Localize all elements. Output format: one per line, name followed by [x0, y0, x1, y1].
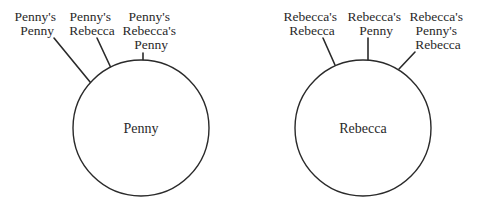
label-line: Penny's	[70, 9, 111, 24]
label-rebecca-penny-rebecca: Rebecca's Penny's Rebecca	[410, 9, 467, 52]
label-line: Penny's	[129, 9, 170, 24]
label-line: Rebecca's	[284, 9, 337, 24]
connector-rebecca-rebecca	[323, 38, 335, 65]
label-line: Rebecca	[289, 23, 335, 38]
label-penny-penny: Penny's Penny	[15, 9, 60, 38]
label-penny-rebecca-penny: Penny's Rebecca's Penny	[123, 9, 180, 52]
connector-penny-rebecca	[97, 38, 111, 68]
label-rebecca-penny: Rebecca's Penny	[348, 9, 405, 38]
perspective-diagram: Penny Penny's Penny Penny's Rebecca Penn…	[0, 0, 477, 204]
label-line: Penny	[20, 23, 54, 38]
rebecca-node-group: Rebecca Rebecca's Rebecca Rebecca's Penn…	[284, 9, 467, 196]
label-rebecca-rebecca: Rebecca's Rebecca	[284, 9, 341, 38]
label-line: Rebecca's	[123, 23, 176, 38]
connector-penny-penny	[54, 38, 95, 88]
label-line: Rebecca	[69, 23, 115, 38]
label-penny-rebecca: Penny's Rebecca	[69, 9, 115, 38]
label-line: Penny	[134, 37, 168, 52]
rebecca-circle-label: Rebecca	[339, 121, 387, 136]
label-line: Rebecca	[415, 37, 461, 52]
label-line: Penny's	[15, 9, 56, 24]
label-line: Penny's	[416, 23, 457, 38]
label-line: Rebecca's	[410, 9, 463, 24]
label-line: Rebecca's	[348, 9, 401, 24]
penny-circle-label: Penny	[124, 121, 159, 136]
penny-node-group: Penny Penny's Penny Penny's Rebecca Penn…	[15, 9, 209, 196]
label-line: Penny	[359, 23, 393, 38]
connector-rebecca-penny-rebecca	[399, 52, 415, 69]
